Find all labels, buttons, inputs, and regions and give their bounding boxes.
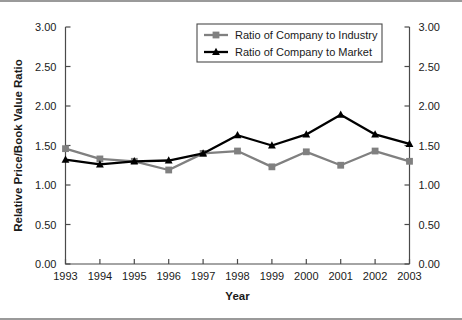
x-axis-tick-label: 2001 (328, 270, 352, 282)
y-axis-tick-label-right: 1.00 (419, 179, 440, 191)
x-axis-tick-label: 1997 (191, 270, 215, 282)
x-axis-title: Year (225, 290, 250, 302)
data-point-marker-square (406, 158, 413, 165)
data-point-marker-triangle (234, 131, 242, 138)
data-point-marker-square (213, 32, 220, 39)
y-axis-tick-label-left: 2.50 (35, 61, 56, 73)
chart-legend: Ratio of Company to IndustryRatio of Com… (197, 24, 382, 62)
y-axis-tick-label-left: 3.00 (35, 21, 56, 33)
x-axis-tick-label: 2003 (397, 270, 421, 282)
x-axis-tick-label: 1999 (260, 270, 284, 282)
y-axis-tick-label-left: 1.00 (35, 179, 56, 191)
x-axis-tick-label: 1998 (225, 270, 249, 282)
data-point-marker-square (372, 148, 379, 155)
x-axis-tick-label: 1993 (53, 270, 77, 282)
y-axis-tick-label-right: 0.00 (419, 258, 440, 270)
y-axis-tick-label-left: 0.50 (35, 219, 56, 231)
data-series-1 (62, 145, 413, 173)
y-axis-tick-label-right: 3.00 (419, 21, 440, 33)
y-axis-tick-label-right: 0.50 (419, 219, 440, 231)
relative-price-book-value-ratio-line-chart: 0.000.000.500.501.001.001.501.502.002.00… (0, 2, 462, 320)
x-axis-tick-label: 1994 (88, 270, 112, 282)
legend-label: Ratio of Company to Industry (235, 29, 378, 41)
x-axis-tick-label: 1996 (156, 270, 180, 282)
data-point-marker-square (165, 167, 172, 174)
y-axis-title: Relative Price/Book Value Ratio (12, 59, 24, 232)
data-point-marker-triangle (337, 110, 345, 117)
data-point-marker-square (303, 148, 310, 155)
y-axis-tick-label-right: 2.00 (419, 100, 440, 112)
y-axis-tick-label-right: 1.50 (419, 140, 440, 152)
y-axis-tick-label-left: 1.50 (35, 140, 56, 152)
legend-label: Ratio of Company to Market (235, 46, 372, 58)
data-point-marker-square (62, 145, 69, 152)
chart-figure: 0.000.000.500.501.001.001.501.502.002.00… (0, 0, 462, 320)
x-axis-tick-label: 2002 (363, 270, 387, 282)
y-axis-tick-label-right: 2.50 (419, 61, 440, 73)
data-point-marker-square (337, 162, 344, 169)
x-axis-tick-label: 2000 (294, 270, 318, 282)
data-point-marker-square (234, 148, 241, 155)
y-axis-tick-label-left: 0.00 (35, 258, 56, 270)
y-axis-tick-label-left: 2.00 (35, 100, 56, 112)
x-axis-tick-label: 1995 (122, 270, 146, 282)
data-point-marker-square (269, 163, 276, 170)
